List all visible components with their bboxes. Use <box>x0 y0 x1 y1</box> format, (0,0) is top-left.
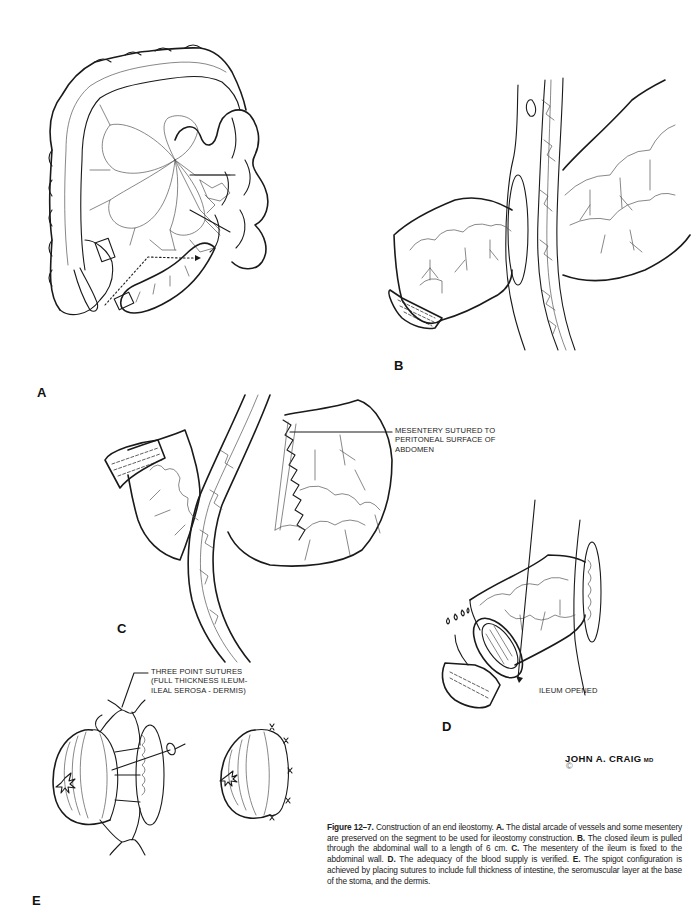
figure-caption: Figure 12–7. Construction of an end ileo… <box>327 822 682 886</box>
annotation-mesentery: MESENTERY SUTURED TO PERITONEAL SURFACE … <box>395 426 495 454</box>
illustration-panel-b <box>380 60 697 360</box>
caption-text-d: The adequacy of the blood supply is veri… <box>399 854 569 864</box>
annotation-line: THREE POINT SUTURES <box>151 667 247 676</box>
copyright-mark: © <box>566 761 573 771</box>
annotation-three-point-sutures: THREE POINT SUTURES (FULL THICKNESS ILEU… <box>151 667 247 695</box>
annotation-line: PERITONEAL SURFACE OF <box>395 435 495 444</box>
panel-label-b: B <box>394 358 403 373</box>
annotation-ileum-opened: ILEUM OPENED <box>539 686 598 695</box>
artist-signature: JOHN A. CRAIGMD <box>565 748 654 766</box>
panel-label-c: C <box>117 621 126 636</box>
signature-suffix: MD <box>644 757 654 763</box>
illustration-panel-c <box>100 390 400 660</box>
annotation-line: ABDOMEN <box>395 445 495 454</box>
annotation-line: ILEAL SEROSA - DERMIS) <box>151 686 247 695</box>
panel-label-e: E <box>32 893 41 908</box>
signature-name: JOHN A. CRAIG <box>565 753 642 764</box>
figure-number: Figure 12–7. <box>327 822 374 832</box>
figure-title: Construction of an end ileostomy. <box>376 822 494 832</box>
annotation-line: (FULL THICKNESS ILEUM- <box>151 676 247 685</box>
panel-label-a: A <box>37 385 46 400</box>
illustration-panel-a <box>0 0 300 340</box>
panel-label-d: D <box>442 719 451 734</box>
annotation-line: MESENTERY SUTURED TO <box>395 426 495 435</box>
